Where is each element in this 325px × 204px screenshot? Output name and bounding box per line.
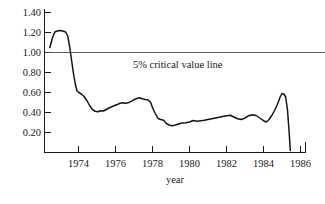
y-tick-label-0-20: 0.20	[23, 127, 41, 138]
critical-value-line-label: 5% critical value line	[133, 59, 223, 70]
y-tick-label-0-80: 0.80	[23, 67, 41, 78]
x-tick-label-1986: 1986	[290, 158, 311, 169]
x-tick-label-1980: 1980	[179, 158, 200, 169]
y-tick-label-1-20: 1.20	[23, 27, 41, 38]
y-tick-label-1-00: 1.00	[23, 47, 41, 58]
x-axis-title: year	[166, 174, 185, 185]
y-tick-marks	[45, 13, 51, 133]
x-tick-label-1974: 1974	[68, 158, 90, 169]
x-tick-marks	[79, 146, 301, 153]
test-statistic-curve	[50, 31, 290, 151]
x-tick-label-1984: 1984	[253, 158, 275, 169]
y-tick-label-1-40: 1.40	[23, 7, 41, 18]
x-tick-label-1982: 1982	[216, 158, 237, 169]
y-tick-label-0-60: 0.60	[23, 87, 41, 98]
y-tick-label-0-40: 0.40	[23, 107, 41, 118]
chart-figure: 1.40 1.20 1.00 0.80 0.60 0.40 0.20 1974 …	[0, 0, 325, 204]
line-chart-canvas: 1.40 1.20 1.00 0.80 0.60 0.40 0.20 1974 …	[0, 0, 325, 204]
x-tick-label-1976: 1976	[105, 158, 126, 169]
x-tick-label-1978: 1978	[142, 158, 163, 169]
